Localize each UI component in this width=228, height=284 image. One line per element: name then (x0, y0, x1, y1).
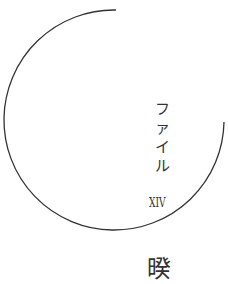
roman-numeral: XIV (149, 195, 166, 210)
vertical-label-file: フ ァ イ ル (155, 100, 169, 176)
label-char: フ (155, 100, 169, 119)
label-char: ル (155, 157, 169, 176)
label-char: イ (155, 138, 169, 157)
bottom-glyph: 暌 (147, 249, 171, 284)
label-char: ァ (155, 119, 169, 138)
